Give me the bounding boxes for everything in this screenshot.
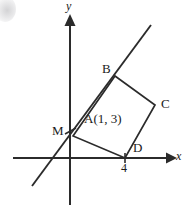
point-label-M: M — [52, 124, 64, 137]
x-axis-label: x — [176, 150, 181, 162]
point-label-C: C — [161, 97, 170, 110]
y-axis-arrow-icon — [65, 14, 76, 26]
point-label-D: D — [133, 141, 142, 154]
point-label-B: B — [102, 62, 111, 75]
geometry-figure: x y A(1, 3) B C D M 4 — [0, 0, 194, 211]
point-label-A: A(1, 3) — [84, 112, 122, 125]
y-axis-label: y — [66, 0, 71, 12]
line-through-M-A-B — [32, 25, 151, 186]
x-tick-label-4: 4 — [121, 162, 127, 174]
